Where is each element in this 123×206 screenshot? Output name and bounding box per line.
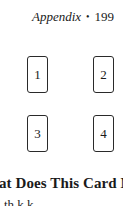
body-text-partial: th k k (4, 197, 34, 206)
card-number: 1 (34, 68, 41, 81)
card-position-4: 4 (93, 115, 114, 152)
running-head: Appendix•199 (32, 9, 123, 25)
card-position-1: 1 (27, 56, 48, 93)
section-heading: at Does This Card Mean (0, 174, 123, 192)
card-number: 2 (100, 68, 107, 81)
page-number: 199 (95, 9, 115, 24)
card-position-3: 3 (27, 115, 48, 152)
card-number: 3 (34, 127, 41, 140)
running-head-title: Appendix (32, 9, 81, 24)
bullet-separator: • (86, 11, 90, 22)
card-position-2: 2 (93, 56, 114, 93)
card-number: 4 (100, 127, 107, 140)
